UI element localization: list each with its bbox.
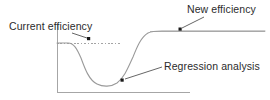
label-regression-analysis: Regression analysis [164, 60, 260, 72]
diagram-canvas [0, 0, 270, 100]
leader-new-efficiency [179, 17, 205, 31]
label-new-efficiency: New efficiency [187, 3, 256, 15]
marker-new-efficiency [179, 28, 182, 31]
leader-current-efficiency [72, 33, 90, 40]
efficiency-regression-diagram: Current efficiency New efficiency Regres… [0, 0, 270, 100]
label-current-efficiency: Current efficiency [9, 20, 92, 32]
marker-current-efficiency [87, 37, 90, 40]
marker-regression-analysis [121, 79, 124, 82]
